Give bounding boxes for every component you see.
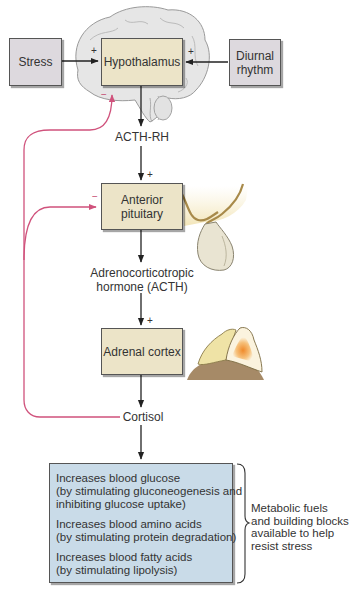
- adrenal-cortex-label: Adrenal cortex: [103, 345, 180, 359]
- stress-label: Stress: [18, 55, 52, 69]
- adrenal-gland-illustration: [187, 328, 264, 381]
- adrenal-cortex-box: Adrenal cortex: [101, 328, 183, 375]
- acth-label: Adrenocorticotropic hormone (ACTH): [81, 266, 203, 294]
- diurnal-plus-sign: +: [188, 47, 194, 57]
- cortisol-effects-box: Increases blood glucose (by stimulating …: [49, 463, 233, 583]
- acthrh-plus-sign: +: [147, 170, 153, 180]
- effect-glucose-line-1: Increases blood glucose: [56, 472, 227, 485]
- anterior-pituitary-label-line-2: pituitary: [121, 207, 163, 221]
- anterior-pituitary-label-line-1: Anterior: [121, 193, 163, 207]
- outcome-note-line-3: available to help: [251, 527, 349, 540]
- acth-rh-label: ACTH-RH: [101, 130, 183, 144]
- cortisol-label: Cortisol: [121, 410, 165, 424]
- pituitary-illustration: [182, 184, 248, 270]
- effect-fatty-acids-line-2: (by stimulating lipolysis): [56, 564, 227, 577]
- pituitary-minus-sign: −: [92, 192, 98, 202]
- outcome-note-line-1: Metabolic fuels: [251, 502, 349, 515]
- effect-fatty-acids-line-1: Increases blood fatty acids: [56, 551, 227, 564]
- effect-glucose-line-2: (by stimulating gluconeogenesis and: [56, 485, 227, 498]
- effect-amino-acids-line-2: (by stimulating protein degradation): [56, 531, 227, 544]
- effects-brace: [237, 464, 249, 583]
- stress-box: Stress: [9, 38, 62, 86]
- acth-label-line-1: Adrenocorticotropic: [81, 266, 203, 280]
- anterior-pituitary-box: Anterior pituitary: [101, 183, 183, 230]
- stress-plus-sign: +: [91, 46, 97, 56]
- diurnal-rhythm-label-line-2: rhythm: [237, 63, 274, 77]
- diurnal-rhythm-box: Diurnal rhythm: [229, 39, 281, 86]
- effect-glucose: Increases blood glucose (by stimulating …: [56, 472, 227, 511]
- hypothalamus-box: Hypothalamus: [101, 38, 183, 86]
- effect-amino-acids: Increases blood amino acids (by stimulat…: [56, 518, 227, 544]
- effect-glucose-line-3: inhibiting glucose uptake): [56, 498, 227, 511]
- diurnal-rhythm-label-line-1: Diurnal: [236, 49, 274, 63]
- hypothalamus-label: Hypothalamus: [104, 55, 181, 69]
- acth-label-line-2: hormone (ACTH): [81, 280, 203, 294]
- effect-amino-acids-line-1: Increases blood amino acids: [56, 518, 227, 531]
- acth-plus-sign: +: [147, 316, 153, 326]
- outcome-note: Metabolic fuels and building blocks avai…: [251, 502, 349, 552]
- outcome-note-line-2: and building blocks: [251, 515, 349, 528]
- effect-fatty-acids: Increases blood fatty acids (by stimulat…: [56, 551, 227, 577]
- outcome-note-line-4: resist stress: [251, 540, 349, 553]
- hypothalamus-minus-sign: −: [101, 90, 107, 100]
